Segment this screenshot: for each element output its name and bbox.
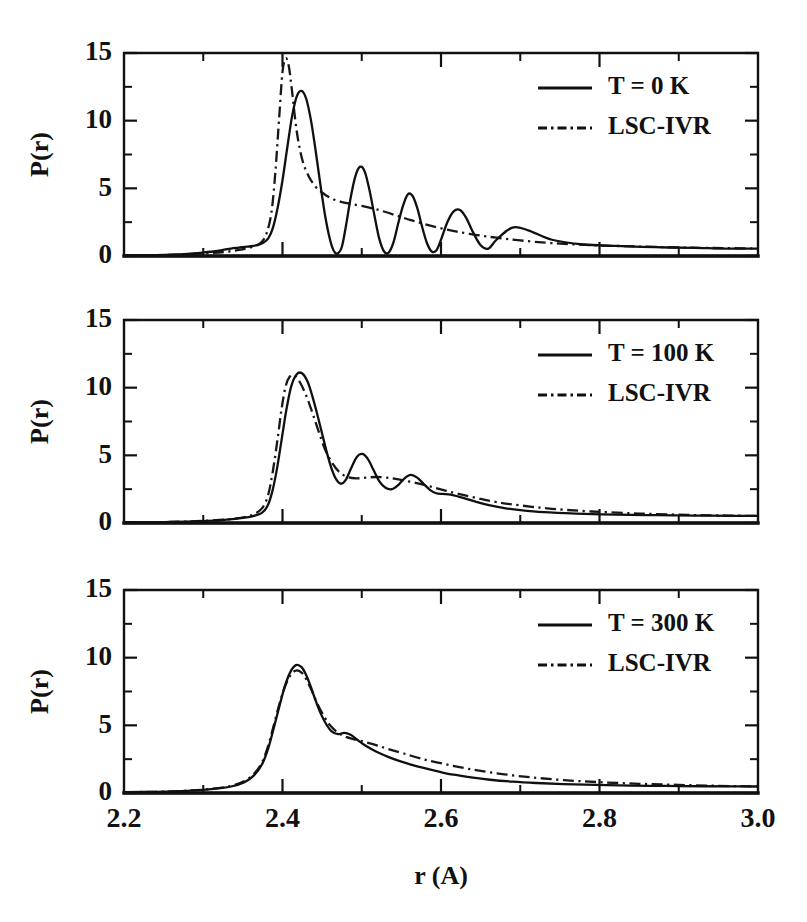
curve-lsc-ivr [124, 670, 758, 792]
legend-label: LSC-IVR [608, 112, 712, 139]
x-axis-group: 2.22.42.62.83.0 [107, 802, 776, 833]
y-tick-label: 0 [99, 506, 113, 536]
x-tick-label: 2.6 [424, 802, 459, 833]
x-tick-label: 2.8 [582, 802, 617, 833]
y-tick-label: 10 [85, 104, 112, 134]
y-tick-label: 5 [99, 709, 113, 739]
panel-0k: 051015P(r)T = 0 KLSC-IVR [25, 36, 758, 269]
y-tick-label: 10 [85, 371, 112, 401]
y-axis-title: P(r) [25, 132, 54, 177]
plot-svg: 051015P(r)T = 0 KLSC-IVR051015P(r)T = 10… [0, 0, 807, 922]
y-tick-label: 15 [85, 36, 112, 66]
panels-group: 051015P(r)T = 0 KLSC-IVR051015P(r)T = 10… [25, 36, 758, 806]
panel-100k: 051015P(r)T = 100 KLSC-IVR [25, 303, 758, 536]
x-axis-title: r (A) [414, 861, 468, 890]
y-tick-label: 0 [99, 239, 113, 269]
y-tick-label: 5 [99, 172, 113, 202]
panel-300k: 051015P(r)T = 300 KLSC-IVR [25, 573, 758, 806]
legend-label: LSC-IVR [608, 649, 712, 676]
y-tick-label: 5 [99, 439, 113, 469]
panel-curves [124, 665, 758, 792]
legend-label: LSC-IVR [608, 379, 712, 406]
legend-label: T = 300 K [608, 609, 715, 636]
y-axis-title: P(r) [25, 399, 54, 444]
y-tick-label: 15 [85, 573, 112, 603]
y-tick-label: 10 [85, 641, 112, 671]
legend-label: T = 0 K [608, 72, 690, 99]
x-tick-label: 3.0 [741, 802, 776, 833]
legend-label: T = 100 K [608, 339, 715, 366]
y-axis-title: P(r) [25, 669, 54, 714]
y-tick-label: 15 [85, 303, 112, 333]
curve-quantum [124, 665, 758, 792]
x-tick-label: 2.4 [265, 802, 300, 833]
x-tick-label: 2.2 [107, 802, 142, 833]
figure-container: 051015P(r)T = 0 KLSC-IVR051015P(r)T = 10… [0, 0, 807, 922]
